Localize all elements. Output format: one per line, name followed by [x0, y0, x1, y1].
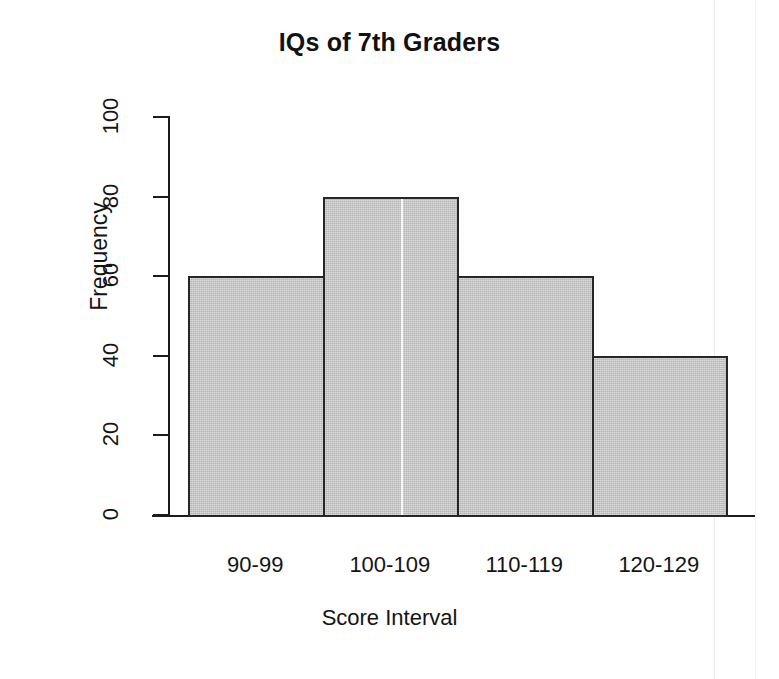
histogram-bar — [188, 276, 325, 517]
y-axis-tick-label: 60 — [98, 240, 124, 310]
y-axis-tick-label: 40 — [98, 320, 124, 390]
y-axis-tick-label: 80 — [98, 161, 124, 231]
x-axis-tick-label: 110-119 — [457, 552, 592, 578]
y-axis-tick-label: 100 — [98, 81, 124, 151]
plot-area: 020406080100 90-99100-109110-119120-129 — [152, 110, 756, 520]
bar-scan-seam — [401, 199, 403, 515]
histogram-bar — [323, 197, 460, 517]
x-axis-tick-label: 90-99 — [188, 552, 323, 578]
y-axis-line — [168, 117, 170, 516]
histogram-bar — [592, 356, 729, 517]
histogram-bar — [457, 276, 594, 517]
x-axis-title: Score Interval — [0, 605, 779, 631]
y-axis-tick — [153, 514, 170, 516]
chart-title: IQs of 7th Graders — [0, 28, 779, 57]
y-axis-tick — [153, 275, 170, 277]
y-axis-tick-label: 0 — [98, 479, 124, 549]
histogram-figure: IQs of 7th Graders Frequency 02040608010… — [0, 0, 779, 679]
y-axis-tick — [153, 355, 170, 357]
y-axis-tick-label: 20 — [98, 399, 124, 469]
y-axis-tick — [153, 116, 170, 118]
x-axis-tick-label: 120-129 — [592, 552, 727, 578]
y-axis-tick — [153, 434, 170, 436]
y-axis-tick — [153, 196, 170, 198]
x-axis-tick-label: 100-109 — [323, 552, 458, 578]
